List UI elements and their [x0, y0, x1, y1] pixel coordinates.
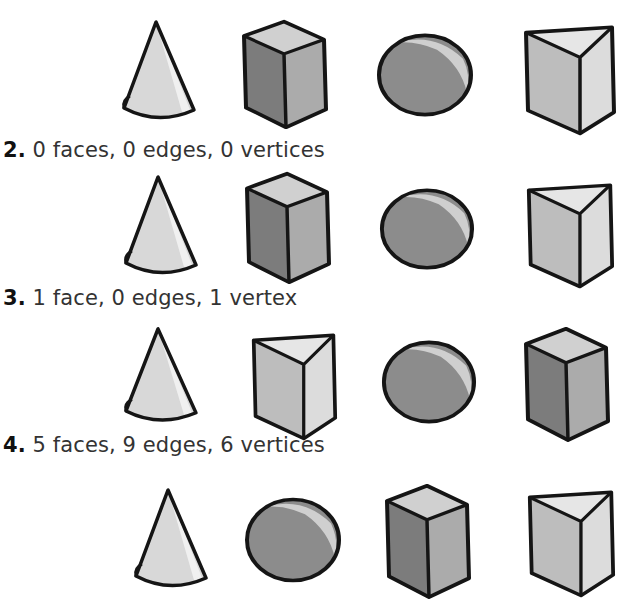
cone-shape — [118, 18, 198, 128]
cuboid-shape — [243, 170, 333, 285]
sphere-shape — [375, 30, 475, 120]
sphere-shape — [378, 185, 476, 273]
cuboid-shape — [383, 482, 473, 600]
option-caption: 2. 0 faces, 0 edges, 0 vertices — [3, 137, 325, 163]
option-row-4: 4. 5 faces, 9 edges, 6 vertices — [0, 432, 613, 535]
option-row-2: 2. 0 faces, 0 edges, 0 vertices — [0, 135, 613, 285]
option-text: 1 face, 0 edges, 1 vertex — [33, 286, 298, 310]
triangular-prism-shape — [525, 180, 615, 290]
sphere-shape — [243, 494, 343, 586]
triangular-prism-shape — [522, 22, 617, 137]
option-text: 0 faces, 0 edges, 0 vertices — [33, 138, 325, 162]
cone-shape — [120, 325, 200, 430]
option-number: 2. — [3, 138, 26, 162]
option-row-3: 3. 1 face, 0 edges, 1 vertex — [0, 285, 613, 435]
triangular-prism-shape — [526, 487, 616, 599]
sphere-shape — [380, 337, 478, 427]
option-number: 4. — [3, 433, 26, 457]
cuboid-shape — [240, 18, 330, 143]
cone-shape — [120, 173, 200, 283]
option-row-1 — [0, 0, 613, 135]
cuboid-shape — [522, 325, 612, 443]
triangular-prism-shape — [250, 330, 338, 442]
option-caption: 4. 5 faces, 9 edges, 6 vertices — [3, 432, 325, 458]
option-text: 5 faces, 9 edges, 6 vertices — [33, 433, 325, 457]
option-caption: 3. 1 face, 0 edges, 1 vertex — [3, 285, 297, 311]
cone-shape — [130, 486, 210, 596]
option-number: 3. — [3, 286, 26, 310]
